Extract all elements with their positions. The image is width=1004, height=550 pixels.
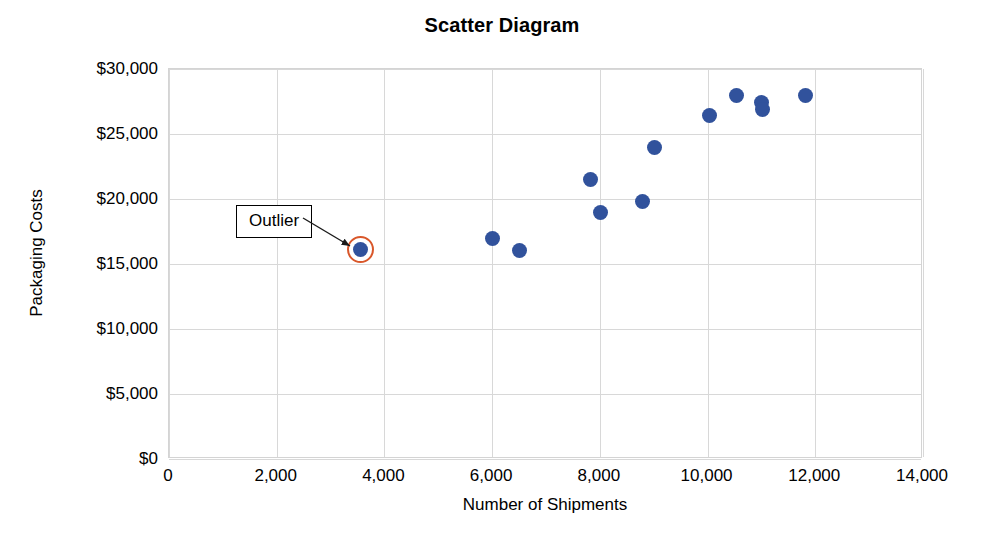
x-axis-tick-label: 0 [108, 466, 228, 485]
scatter-chart: Scatter Diagram $0$5,000$10,000$15,000$2… [0, 0, 1004, 550]
x-axis-tick-label: 12,000 [754, 466, 874, 485]
x-axis-tick-label: 4,000 [323, 466, 443, 485]
x-axis-tick-label: 14,000 [862, 466, 982, 485]
x-axis-tick-label: 10,000 [647, 466, 767, 485]
outlier-annotation-label: Outlier [236, 205, 312, 238]
y-axis-title: Packaging Costs [27, 153, 47, 353]
x-axis-title: Number of Shipments [168, 495, 922, 515]
x-axis-tick-labels: 02,0004,0006,0008,00010,00012,00014,000 [0, 0, 1004, 550]
x-axis-tick-label: 8,000 [539, 466, 659, 485]
x-axis-tick-label: 6,000 [431, 466, 551, 485]
x-axis-tick-label: 2,000 [216, 466, 336, 485]
